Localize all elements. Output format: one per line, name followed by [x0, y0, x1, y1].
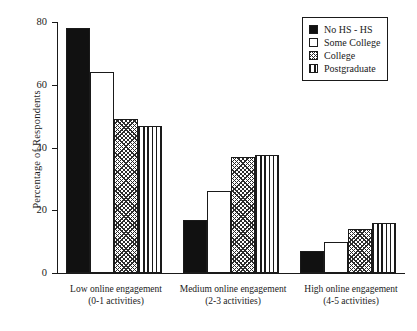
bar-medium-no-hs-hs — [183, 220, 207, 273]
bar-medium-postgraduate — [255, 155, 279, 273]
y-tick-mark-20 — [52, 210, 57, 211]
y-tick-mark-80 — [52, 22, 57, 23]
legend-label-no-hs-hs: No HS - HS — [324, 25, 373, 35]
x-category-label-high: High online engagement (4-5 activities) — [241, 283, 417, 307]
legend: No HS - HS Some College College Postgrad… — [302, 17, 388, 81]
crosshatch-square-swatch-icon — [309, 51, 318, 60]
bar-low-no-hs-hs — [66, 28, 90, 273]
legend-item-no-hs-hs: No HS - HS — [309, 23, 380, 36]
vertical-stripe-square-swatch-icon — [309, 64, 318, 73]
legend-label-postgraduate: Postgraduate — [324, 64, 376, 74]
y-tick-mark-40 — [52, 148, 57, 149]
x-category-high-line1: High online engagement — [304, 284, 397, 294]
bar-low-some-college — [90, 72, 114, 273]
bar-medium-some-college — [207, 191, 231, 273]
bar-high-college — [348, 229, 372, 273]
legend-item-some-college: Some College — [309, 36, 380, 49]
legend-label-college: College — [324, 51, 355, 61]
y-tick-label-60: 60 — [21, 80, 47, 91]
legend-item-postgraduate: Postgraduate — [309, 62, 380, 75]
solid-square-swatch-icon — [309, 25, 318, 34]
x-category-high-line2: (4-5 activities) — [241, 295, 417, 307]
x-axis-line — [57, 273, 405, 274]
y-tick-label-0: 0 — [21, 268, 47, 279]
legend-item-college: College — [309, 49, 380, 62]
y-tick-label-80: 80 — [21, 17, 47, 28]
bar-chart-figure: Percentage of Respondents 80 60 40 20 0 — [0, 0, 417, 331]
legend-label-some-college: Some College — [324, 38, 380, 48]
bar-low-postgraduate — [138, 126, 162, 273]
empty-square-swatch-icon — [309, 38, 318, 47]
bar-medium-college — [231, 157, 255, 273]
bar-low-college — [114, 119, 138, 273]
y-tick-label-20: 20 — [21, 205, 47, 216]
y-tick-mark-60 — [52, 85, 57, 86]
y-axis-line — [57, 22, 58, 273]
bar-high-postgraduate — [372, 223, 396, 273]
bar-high-some-college — [324, 242, 348, 273]
y-tick-label-40: 40 — [21, 143, 47, 154]
bar-high-no-hs-hs — [300, 251, 324, 273]
y-tick-mark-0 — [52, 273, 57, 274]
